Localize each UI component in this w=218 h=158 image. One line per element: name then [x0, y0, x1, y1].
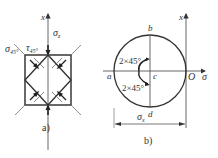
point-d-label: d [148, 109, 153, 119]
point-a-label: a [107, 71, 112, 81]
panel-a-element-diagram: x σz σ45° τ45° a) [5, 12, 81, 150]
panel-b-sigma-axis-label: σ [202, 71, 208, 82]
point-c-label: c [153, 71, 157, 81]
origin-label: O [188, 71, 195, 82]
angle-lower-label: 2×45° [122, 83, 145, 93]
panel-a-caption: a) [42, 122, 50, 134]
tau-45-label: τ45° [26, 42, 39, 54]
point-b-label: b [148, 23, 153, 33]
angle-upper-label: 2×45° [119, 56, 142, 66]
sigma-45-label: σ45° [5, 43, 19, 55]
sigma-x-dimension-label: σx [137, 111, 145, 123]
panel-a-axis-label: x [40, 12, 45, 22]
panel-b-caption: b) [144, 135, 152, 147]
panel-b-axis-x-label: x [178, 12, 183, 22]
mohr-circle-figure: x σz σ45° τ45° a) x σ O a b c d 2×45° 2×… [0, 0, 218, 158]
sigma-z-label: σz [53, 27, 61, 39]
panel-b-mohr-circle: x σ O a b c d 2×45° 2×45° σx b) [103, 12, 208, 147]
